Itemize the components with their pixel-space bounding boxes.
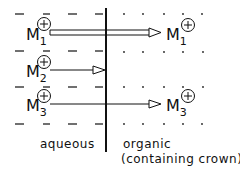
ion-m3-aqueous: M3 (26, 98, 47, 121)
arrow-m2-blocked (50, 66, 105, 74)
ion-m1-aqueous: M1 (26, 27, 47, 50)
ion-m1-organic: M1 (166, 27, 187, 50)
organic-phase-sublabel: (containing crown) (121, 152, 240, 166)
ion-m2-aqueous: M2 (26, 64, 47, 87)
aqueous-phase-label: aqueous (40, 137, 95, 151)
ion-m3-organic: M3 (166, 98, 187, 121)
organic-phase-label: organic (123, 137, 171, 151)
